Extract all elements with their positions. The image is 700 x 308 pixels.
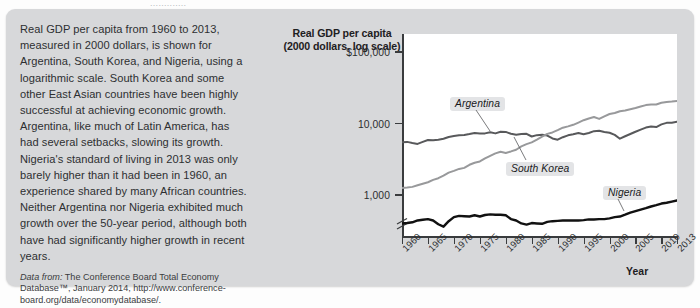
y-tick (395, 194, 402, 196)
chart-figure: Real GDP per capita (2000 dollars, log s… (258, 19, 688, 281)
y-tick (395, 51, 402, 53)
series-lines (402, 34, 677, 238)
source-label: Data from: (20, 272, 62, 282)
callout-south-korea: South Korea (506, 162, 574, 176)
caption-source: Data from: The Conference Board Total Ec… (20, 272, 250, 306)
figure-card: Real GDP per capita from 1960 to 2013, m… (6, 9, 694, 286)
y-axis-title-line1: Real GDP per capita (258, 27, 426, 40)
caption-column: Real GDP per capita from 1960 to 2013, m… (20, 21, 250, 306)
cut-off-text-sliver: ............. (150, 0, 360, 7)
page-root: ............. Real GDP per capita from 1… (0, 0, 700, 308)
series-line-argentina (402, 122, 677, 144)
y-tick-label: 10,000 (294, 118, 390, 129)
x-axis-title: Year (626, 266, 648, 277)
y-tick-label: 1,000 (294, 190, 390, 201)
caption-paragraph: Real GDP per capita from 1960 to 2013, m… (20, 21, 250, 264)
callout-nigeria: Nigeria (603, 186, 646, 200)
series-line-nigeria (402, 200, 677, 226)
callout-argentina: Argentina (450, 97, 505, 111)
y-tick-label: $100,000 (294, 47, 390, 58)
y-tick (395, 123, 402, 125)
